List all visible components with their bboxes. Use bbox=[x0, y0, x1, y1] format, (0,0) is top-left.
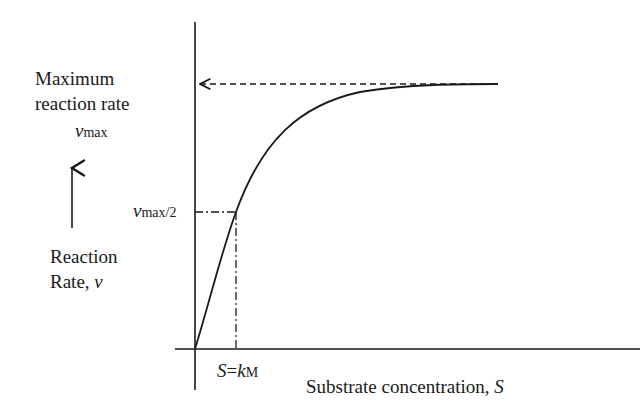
km-label: S=kM bbox=[217, 360, 258, 384]
rate-label-line2: Rate, v bbox=[50, 271, 103, 293]
x-axis-label: Substrate concentration, S bbox=[306, 376, 504, 398]
vmax-label: vmax bbox=[75, 120, 108, 144]
rate-curve bbox=[195, 84, 498, 349]
half-vmax-label: vmax/2 bbox=[133, 200, 176, 224]
max-label-line1: Maximum bbox=[35, 68, 114, 90]
kinetics-diagram bbox=[0, 0, 644, 411]
max-label-line2: reaction rate bbox=[35, 93, 129, 115]
rate-label-line1: Reaction bbox=[50, 246, 118, 268]
